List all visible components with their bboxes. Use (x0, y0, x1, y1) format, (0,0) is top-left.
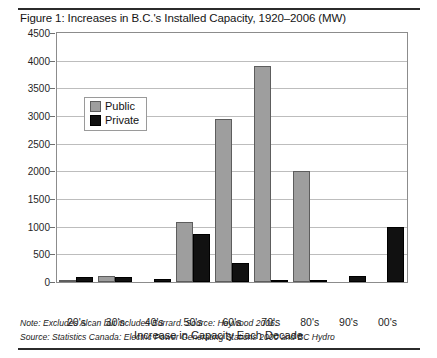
plot-wrapper: 050010001500200025003000350040004500 Pub… (0, 28, 437, 286)
bar-private-80s (310, 280, 327, 282)
top-rule (18, 8, 420, 10)
bar-public-20s (59, 280, 76, 282)
y-axis-tick-marks (0, 32, 56, 283)
bar-private-50s (193, 234, 210, 282)
chart-legend: Public Private (84, 97, 147, 131)
legend-label-private: Private (105, 115, 139, 126)
bar-groups (57, 33, 407, 282)
legend-swatch-public-icon (90, 101, 101, 112)
legend-entry-public: Public (90, 101, 139, 112)
bar-group (215, 33, 249, 282)
legend-label-public: Public (105, 101, 135, 112)
y-axis-tick-mark (50, 144, 55, 145)
y-axis-tick-mark (50, 254, 55, 255)
bar-group (137, 33, 171, 282)
bar-public-30s (98, 276, 115, 282)
note-line-1: Note: Excludes Alcan but includes Burrar… (20, 317, 420, 331)
y-axis-tick-mark (50, 171, 55, 172)
bar-private-00s (387, 227, 404, 282)
y-axis-tick-mark (50, 88, 55, 89)
y-axis-tick-mark (50, 116, 55, 117)
bar-private-90s (349, 276, 366, 282)
bar-group (176, 33, 210, 282)
bar-group (254, 33, 288, 282)
bar-group (332, 33, 366, 282)
bar-public-70s (254, 66, 271, 282)
figure-container: Figure 1: Increases in B.C.'s Installed … (0, 0, 437, 358)
bar-private-30s (115, 277, 132, 282)
bar-private-20s (76, 277, 93, 282)
y-axis-tick-mark (50, 199, 55, 200)
y-axis-tick-mark (50, 61, 55, 62)
bar-group (59, 33, 93, 282)
legend-entry-private: Private (90, 115, 139, 126)
bar-group (293, 33, 327, 282)
y-axis-tick-mark (50, 227, 55, 228)
bar-public-60s (215, 119, 232, 282)
bar-private-40s (154, 279, 171, 282)
y-axis-tick-mark (50, 282, 55, 283)
bar-public-80s (293, 171, 310, 282)
figure-notes: Note: Excludes Alcan but includes Burrar… (20, 317, 420, 345)
y-axis-tick-mark (50, 33, 55, 34)
bar-group (370, 33, 404, 282)
bar-private-70s (271, 280, 288, 282)
note-line-2: Source: Statistics Canada: Electric Powe… (20, 331, 420, 345)
bottom-rule (18, 348, 420, 350)
bar-public-50s (176, 222, 193, 282)
bar-private-60s (232, 263, 249, 282)
bar-group (98, 33, 132, 282)
legend-swatch-private-icon (90, 115, 101, 126)
figure-title: Figure 1: Increases in B.C.'s Installed … (20, 12, 346, 24)
